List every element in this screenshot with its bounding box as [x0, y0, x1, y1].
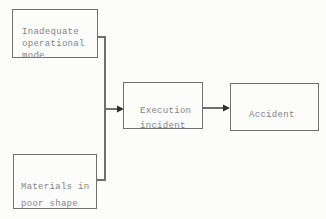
- flowchart-canvas: Inadequate operational mode Materials in…: [0, 0, 326, 219]
- node-accident: Accident: [230, 83, 319, 131]
- node-label: Execution incident: [140, 106, 191, 131]
- arrowhead-accident-icon: [223, 105, 230, 112]
- connector-merge-elbow: [96, 37, 105, 180]
- node-inadequate-operational-mode: Inadequate operational mode: [12, 9, 98, 58]
- node-materials-in-poor-shape: Materials in poor shape: [13, 154, 97, 209]
- node-label: Inadequate operational mode: [22, 27, 85, 61]
- node-label: Accident: [249, 110, 295, 120]
- node-execution-incident: Execution incident: [123, 82, 203, 129]
- node-label: Materials in poor shape: [21, 182, 89, 209]
